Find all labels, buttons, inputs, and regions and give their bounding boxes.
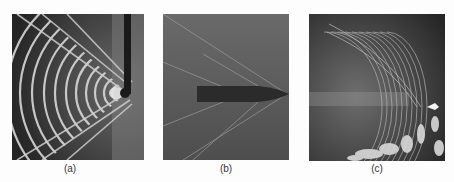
panel-b-caption: (b) — [206, 163, 246, 174]
figure-panel-c — [309, 14, 445, 161]
panel-a-caption: (a) — [50, 163, 90, 174]
figure-panel-a — [12, 14, 144, 160]
wave-fronts-image — [309, 14, 445, 161]
panel-c-caption: (c) — [357, 163, 397, 174]
figure-panel-b — [163, 14, 289, 160]
wave-interference-image — [12, 14, 144, 160]
supersonic-bullet-image — [163, 14, 289, 160]
probe-rod — [124, 14, 131, 94]
